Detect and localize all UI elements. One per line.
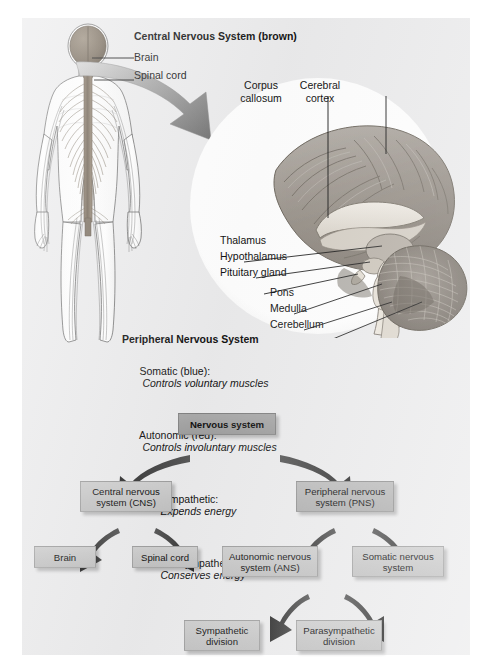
flow-box-cns-line1: Central nervous	[92, 486, 160, 497]
flow-box-brain-label: Brain	[54, 552, 76, 563]
label-hypothalamus: Hypothalamus	[220, 250, 287, 263]
figure-panel: Central Nervous System (brown) Brain Spi…	[22, 18, 470, 655]
pns-legend-item-somatic-desc: Controls voluntary muscles	[140, 377, 269, 389]
cns-legend-item-brain: Brain	[134, 51, 159, 64]
flow-box-somatic-line1: Somatic nervous	[362, 551, 433, 562]
flow-box-pns-line1: Peripheral nervous	[305, 486, 386, 497]
flow-box-nervous-system[interactable]: Nervous system	[178, 413, 276, 435]
flow-box-ans-line1: Autonomic nervous	[229, 551, 311, 562]
pns-legend-item-somatic-label: Somatic (blue):	[140, 365, 211, 377]
flow-box-parasympathetic-line2: division	[323, 636, 355, 647]
cns-legend-title: Central Nervous System (brown)	[134, 30, 297, 43]
flow-box-nervous-system-label: Nervous system	[190, 419, 264, 430]
flow-box-spinal-cord-label: Spinal cord	[141, 552, 189, 563]
cns-legend-item-spinal-cord: Spinal cord	[134, 69, 187, 82]
flow-box-somatic-line2: system	[383, 562, 413, 573]
label-medulla: Medulla	[270, 302, 307, 315]
flow-box-spinal-cord[interactable]: Spinal cord	[132, 546, 198, 568]
flow-box-sympathetic-line1: Sympathetic	[196, 625, 249, 636]
flow-box-brain[interactable]: Brain	[34, 546, 96, 568]
flow-box-pns-line2: system (PNS)	[315, 497, 374, 508]
label-cerebellum: Cerebellum	[270, 318, 324, 331]
flow-box-parasympathetic[interactable]: Parasympathetic division	[296, 620, 382, 651]
flow-box-ans[interactable]: Autonomic nervous system (ANS)	[222, 546, 318, 577]
brain-magnification-circle	[168, 78, 468, 338]
flow-box-cns-line2: system (CNS)	[96, 497, 156, 508]
flow-box-sympathetic-line2: division	[206, 636, 238, 647]
label-thalamus: Thalamus	[220, 234, 266, 247]
label-pituitary-gland: Pituitary gland	[220, 266, 287, 279]
flow-box-somatic[interactable]: Somatic nervous system	[352, 546, 444, 577]
label-corpus-callosum-line2: callosum	[228, 92, 294, 105]
label-cerebral-cortex-line1: Cerebral	[292, 79, 348, 92]
label-corpus-callosum-line1: Corpus	[234, 79, 288, 92]
flowchart-arrows	[22, 408, 470, 655]
pns-legend-title: Peripheral Nervous System	[122, 333, 259, 346]
flow-box-parasympathetic-line1: Parasympathetic	[303, 625, 374, 636]
flow-box-sympathetic[interactable]: Sympathetic division	[184, 620, 260, 651]
flow-box-ans-line2: system (ANS)	[240, 562, 299, 573]
cns-leader-lines	[72, 36, 172, 96]
flow-box-cns[interactable]: Central nervous system (CNS)	[80, 481, 172, 512]
label-pons: Pons	[270, 286, 294, 299]
label-cerebral-cortex-line2: cortex	[294, 92, 346, 105]
pns-legend-item-somatic: Somatic (blue): Controls voluntary muscl…	[122, 352, 277, 402]
flow-box-pns[interactable]: Peripheral nervous system (PNS)	[296, 481, 394, 512]
